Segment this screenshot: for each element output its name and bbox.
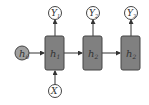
h2-sub: 2	[93, 53, 98, 60]
x-label: X	[50, 86, 58, 96]
output-node-3: Y3	[125, 7, 138, 20]
hidden-node-3: h2	[121, 36, 140, 70]
y1-sub: 1	[57, 13, 60, 19]
output-node-1: Y1	[49, 7, 62, 20]
initial-state-node: h0	[15, 46, 29, 60]
edges	[29, 20, 131, 85]
y3-sub: 3	[133, 13, 136, 19]
h0-sub: 0	[25, 53, 29, 60]
output-node-2: Y2	[87, 7, 100, 20]
hidden-node-2: h2	[83, 36, 102, 70]
hidden-node-1: h1	[45, 36, 64, 70]
rnn-diagram: h0 h1 h2 h2 Y1 Y2 Y3 X	[0, 0, 149, 105]
y2-sub: 2	[94, 13, 98, 19]
h1-sub: 1	[56, 53, 60, 60]
h3-sub: 2	[131, 53, 136, 60]
input-node: X	[49, 85, 62, 98]
